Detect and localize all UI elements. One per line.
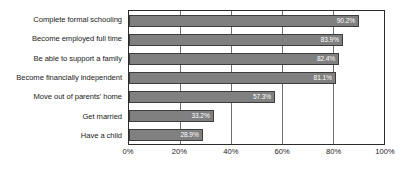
bar-value-label: 33.2%: [191, 112, 212, 119]
axis-tick-label: 0%: [123, 147, 134, 156]
bar-value-label: 57.3%: [253, 93, 274, 100]
axis-tick-label: 20%: [172, 147, 187, 156]
bar-row: 81.1%: [129, 68, 384, 87]
value-axis: 0%20%40%60%80%100%: [128, 147, 385, 161]
bar-row: 90.2%: [129, 11, 384, 30]
bar: 57.3%: [129, 91, 275, 103]
bar-row: 83.9%: [129, 30, 384, 49]
bar-row: 57.3%: [129, 87, 384, 106]
bar: 33.2%: [129, 110, 214, 122]
bar-value-label: 90.2%: [337, 17, 358, 24]
plot-area: 90.2% 83.9% 82.4% 81.1% 57.3%: [128, 10, 385, 145]
category-label: Get married: [0, 106, 126, 125]
axis-tick-label: 60%: [275, 147, 290, 156]
bar-row: 82.4%: [129, 49, 384, 68]
category-label: Complete formal schooling: [0, 10, 126, 29]
bar: 81.1%: [129, 72, 336, 84]
axis-tick-label: 80%: [326, 147, 341, 156]
axis-tick-label: 100%: [375, 147, 394, 156]
category-label: Become employed full time: [0, 29, 126, 48]
axis-tick-label: 40%: [223, 147, 238, 156]
bar-value-label: 28.9%: [180, 131, 201, 138]
category-label: Have a child: [0, 126, 126, 145]
category-label: Be able to support a family: [0, 49, 126, 68]
category-label: Move out of parents' home: [0, 87, 126, 106]
bar-value-label: 82.4%: [317, 55, 338, 62]
bar: 28.9%: [129, 129, 203, 141]
bar-value-label: 83.9%: [321, 36, 342, 43]
bar: 82.4%: [129, 53, 339, 65]
bar-series: 90.2% 83.9% 82.4% 81.1% 57.3%: [129, 11, 384, 144]
category-label: Become financially independent: [0, 68, 126, 87]
bar-chart: Complete formal schooling Become employe…: [0, 0, 400, 179]
bar: 83.9%: [129, 34, 343, 46]
category-axis: Complete formal schooling Become employe…: [0, 10, 126, 145]
bar-value-label: 81.1%: [314, 74, 335, 81]
bar-row: 33.2%: [129, 106, 384, 125]
bar: 90.2%: [129, 15, 359, 27]
bar-row: 28.9%: [129, 125, 384, 144]
